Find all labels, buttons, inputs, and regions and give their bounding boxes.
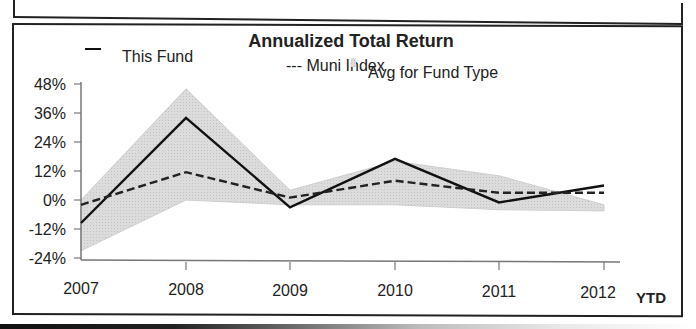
avg-fund-type-band bbox=[81, 89, 604, 251]
x-tick-label: 2011 bbox=[482, 283, 517, 300]
avg-fund-type-area bbox=[81, 89, 604, 251]
y-tick-label: 12% bbox=[34, 163, 66, 180]
x-tick-label: 2010 bbox=[377, 282, 413, 299]
y-tick-label: 24% bbox=[34, 134, 66, 151]
legend-fund-label: This Fund bbox=[122, 48, 193, 65]
y-tick-label: -12% bbox=[29, 221, 66, 238]
x-axis-line bbox=[81, 260, 620, 262]
x-tick-label: 2008 bbox=[168, 281, 204, 298]
chart-title: Annualized Total Return bbox=[248, 31, 454, 51]
x-tick-label: 2007 bbox=[63, 280, 99, 297]
y-tick-label: 48% bbox=[34, 76, 66, 93]
legend-avg-swatch-icon bbox=[351, 58, 356, 67]
bottom-edge-bar bbox=[0, 324, 696, 329]
ytd-label: YTD bbox=[636, 289, 666, 306]
x-tick-label: 2009 bbox=[272, 282, 308, 299]
y-tick-label: 0% bbox=[43, 192, 66, 209]
x-tick-label: 2012 bbox=[580, 284, 616, 301]
annualized-return-chart: Annualized Total Return This Fund --- Mu… bbox=[0, 0, 696, 329]
y-tick-label: 36% bbox=[34, 105, 66, 122]
y-tick-label: -24% bbox=[29, 250, 66, 267]
y-axis: 48%36%24%12%0%-12%-24% bbox=[29, 76, 81, 267]
x-axis: 200720082009201020112012 bbox=[63, 260, 620, 301]
legend: This Fund --- Muni Index Avg for Fund Ty… bbox=[85, 48, 498, 81]
legend-avg-label: Avg for Fund Type bbox=[368, 64, 498, 81]
